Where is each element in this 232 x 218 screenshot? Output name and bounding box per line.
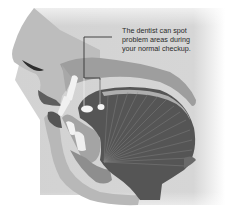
callout-line-1: The dentist can spot bbox=[122, 26, 222, 35]
callout-text: The dentist can spot problem areas durin… bbox=[122, 26, 222, 53]
callout-line-2: problem areas during bbox=[122, 35, 222, 44]
callout-line-3: your normal checkup. bbox=[122, 44, 222, 53]
